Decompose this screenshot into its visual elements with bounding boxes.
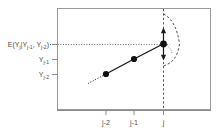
y-axis-label-lag2: Yj-2 [39, 71, 49, 80]
x-tick-label-j: j [162, 119, 165, 127]
y-axis-label-lag1: Yj-1 [39, 56, 49, 65]
y-axis-label-expectation: E(Yj|Yj-1, Yj-2) [8, 41, 49, 50]
figure-container: E(Yj|Yj-1, Yj-2) Yj-1 Yj-2 j-2 j-1 j [0, 0, 223, 133]
plot-svg: E(Yj|Yj-1, Yj-2) Yj-1 Yj-2 j-2 j-1 j [0, 0, 223, 133]
y-lag1-sub: j-1 [42, 59, 49, 65]
x-tick-label-j-minus-1: j-1 [129, 119, 138, 127]
x-tick-label-j-minus-2: j-2 [101, 119, 110, 127]
expectation-suffix: ) [47, 41, 49, 49]
y-lag2-sub: j-2 [42, 74, 49, 80]
data-point-marker [160, 41, 167, 48]
data-point-marker [103, 71, 109, 77]
data-point-marker [131, 56, 137, 62]
